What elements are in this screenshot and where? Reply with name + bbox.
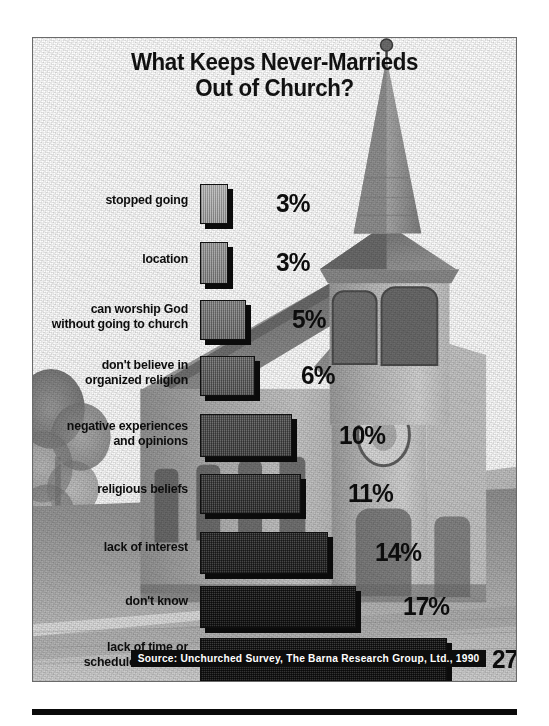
chart-title-line-1: What Keeps Never-Marrieds xyxy=(131,48,418,75)
bar-rows: stopped going3%location3%can worship God… xyxy=(33,38,516,681)
source-caption: Source: Unchurched Survey, The Barna Res… xyxy=(131,650,486,667)
bar-value-label: 17% xyxy=(403,593,449,619)
bar-value-label: 5% xyxy=(292,306,325,332)
bar-value-label: 6% xyxy=(301,362,334,388)
bar-fill xyxy=(201,475,300,513)
bar-fill xyxy=(201,185,227,223)
bar xyxy=(200,300,246,340)
bar xyxy=(200,356,255,396)
bar-body xyxy=(200,242,228,284)
bar-body xyxy=(200,532,328,574)
bar-fill xyxy=(201,415,291,456)
bar-body xyxy=(200,474,301,514)
bar xyxy=(200,414,292,457)
bar-body xyxy=(200,586,356,628)
bar xyxy=(200,532,328,574)
bar-body xyxy=(200,356,255,396)
bar-fill xyxy=(201,357,254,395)
bar-category-label: location xyxy=(41,252,188,267)
bar-value-label: 11% xyxy=(348,480,393,506)
bar-category-label: don't believe in organized religion xyxy=(41,358,188,387)
bar-fill xyxy=(201,243,227,283)
bar-category-label: stopped going xyxy=(41,193,188,208)
infographic-figure: What Keeps Never-Marrieds Out of Church?… xyxy=(32,37,517,682)
bar-category-label: religious beliefs xyxy=(41,482,188,497)
bar-category-label: negative experiences and opinions xyxy=(41,419,188,448)
bar xyxy=(200,474,301,514)
chart-title-line-2: Out of Church? xyxy=(50,75,499,101)
bar-fill xyxy=(201,533,327,573)
bar xyxy=(200,586,356,628)
bar-body xyxy=(200,300,246,340)
bar-value-label: 3% xyxy=(276,190,309,216)
bar-body xyxy=(200,184,228,224)
bar-value-label: 10% xyxy=(339,422,385,448)
bar-fill xyxy=(201,301,245,339)
bar-value-label: 14% xyxy=(375,539,421,565)
bar xyxy=(200,184,228,224)
bar-category-label: don't know xyxy=(41,594,188,609)
bar-fill xyxy=(201,587,355,627)
bottom-divider-rule xyxy=(32,709,517,715)
bar-category-label: lack of interest xyxy=(41,540,188,555)
bar-value-label: 27% xyxy=(492,646,517,672)
chart-title: What Keeps Never-Marrieds Out of Church? xyxy=(50,49,499,102)
bar-body xyxy=(200,414,292,457)
bar xyxy=(200,242,228,284)
bar-category-label: can worship God without going to church xyxy=(41,302,188,331)
bar-value-label: 3% xyxy=(276,249,309,275)
